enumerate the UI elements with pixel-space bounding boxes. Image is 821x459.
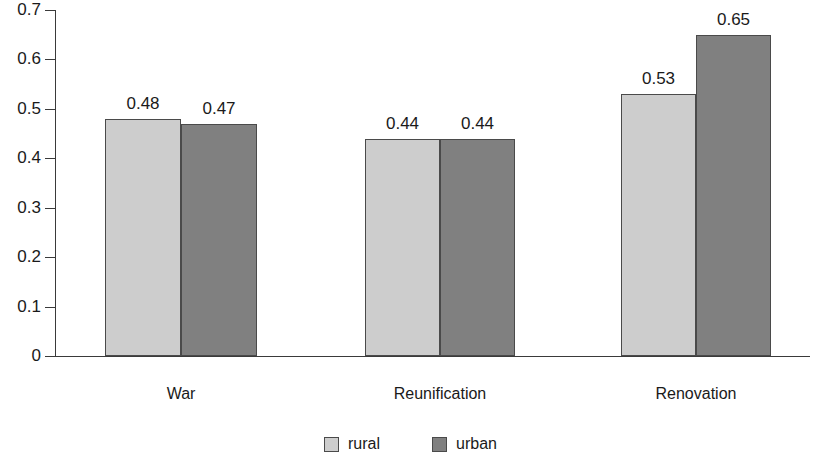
bar-value-label: 0.65 (696, 11, 771, 28)
plot-area: 00.10.20.30.40.50.60.7 0.480.470.440.440… (0, 0, 821, 459)
bar-value-label: 0.48 (105, 95, 181, 112)
y-axis-tick-label: 0 (1, 347, 41, 364)
legend-item-rural: rural (324, 436, 380, 452)
bar-rural-war (105, 119, 181, 356)
y-axis-tick-label: 0.2 (1, 248, 41, 265)
y-axis-tick (45, 307, 55, 308)
y-axis-tick-label: 0.1 (1, 298, 41, 315)
y-axis-tick-label: 0.6 (1, 50, 41, 67)
bar-urban-war (181, 124, 257, 356)
category-label-renovation: Renovation (621, 385, 771, 403)
y-axis-tick-label: 0.4 (1, 149, 41, 166)
y-axis-tick-label-wrap: 0.5 (0, 100, 41, 117)
y-axis-tick-label: 0.5 (1, 100, 41, 117)
legend-swatch-rural-icon (324, 437, 339, 452)
bar-value-label: 0.44 (440, 115, 515, 132)
y-axis-tick-label-wrap: 0 (0, 347, 41, 364)
bar-urban-renovation (696, 35, 771, 356)
bar-value-label: 0.47 (181, 100, 257, 117)
y-axis-tick (45, 10, 55, 11)
y-axis-tick (45, 208, 55, 209)
chart-legend: rural urban (0, 433, 821, 455)
legend-swatch-urban-icon (432, 437, 447, 452)
y-axis-tick-label-wrap: 0.6 (0, 50, 41, 67)
y-axis-tick-label-wrap: 0.3 (0, 199, 41, 216)
y-axis-tick-label: 0.3 (1, 199, 41, 216)
category-label-war: War (105, 385, 257, 403)
x-axis-line (55, 356, 810, 357)
y-axis-tick-label: 0.7 (1, 1, 41, 18)
y-axis-tick-label-wrap: 0.1 (0, 298, 41, 315)
y-axis-tick (45, 356, 55, 357)
legend-label-rural: rural (348, 436, 380, 452)
y-axis-tick (45, 257, 55, 258)
y-axis-tick (45, 109, 55, 110)
bar-chart: 00.10.20.30.40.50.60.7 0.480.470.440.440… (0, 0, 821, 459)
bar-rural-renovation (621, 94, 696, 356)
bar-value-label: 0.44 (365, 115, 440, 132)
y-axis-tick-label-wrap: 0.7 (0, 1, 41, 18)
y-axis-line (55, 10, 56, 356)
y-axis-tick-label-wrap: 0.4 (0, 149, 41, 166)
bar-value-label: 0.53 (621, 70, 696, 87)
y-axis-tick-label-wrap: 0.2 (0, 248, 41, 265)
legend-item-urban: urban (432, 436, 497, 452)
bar-urban-reunification (440, 139, 515, 356)
y-axis-tick (45, 59, 55, 60)
category-label-reunification: Reunification (365, 385, 515, 403)
bar-rural-reunification (365, 139, 440, 356)
y-axis-tick (45, 158, 55, 159)
legend-label-urban: urban (456, 436, 497, 452)
